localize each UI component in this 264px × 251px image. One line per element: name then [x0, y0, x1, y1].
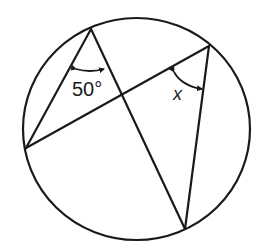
inscribed-angles-diagram: 50° x [0, 0, 264, 251]
angle-label-x: x [172, 84, 183, 104]
circle [23, 18, 250, 240]
angle-label-50: 50° [72, 78, 102, 100]
chord-right-bottom [185, 46, 209, 229]
angle-arc-50 [76, 69, 104, 71]
chord-top-bottom [91, 29, 185, 229]
